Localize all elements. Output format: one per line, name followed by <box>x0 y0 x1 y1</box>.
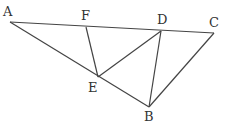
label-c: C <box>209 15 219 30</box>
segment-ab <box>10 22 149 107</box>
label-e: E <box>88 80 98 95</box>
label-a: A <box>2 4 13 19</box>
label-f: F <box>81 8 90 23</box>
segments <box>10 22 214 107</box>
label-b: B <box>144 109 154 124</box>
segment-ac <box>10 22 214 33</box>
geometry-diagram: A F D C E B <box>0 0 226 124</box>
segment-ed <box>98 31 161 77</box>
label-d: D <box>157 12 167 27</box>
